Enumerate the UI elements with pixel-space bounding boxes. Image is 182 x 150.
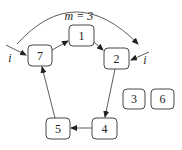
node-3: 3 [123, 89, 145, 109]
node-label: 6 [160, 92, 166, 106]
node-6: 6 [151, 89, 174, 109]
skip-arc-label: m = 3 [65, 9, 94, 23]
node-2: 2 [104, 48, 129, 69]
pointer-label-right: i [143, 53, 146, 67]
node-label: 2 [114, 52, 120, 66]
node-label: 4 [102, 122, 108, 136]
node-label: 3 [131, 92, 137, 106]
cycle-diagram: m = 3 i i 7 1 2 4 5 3 6 [0, 0, 182, 150]
node-5: 5 [46, 118, 70, 139]
edge-2-4 [105, 69, 115, 117]
edge-7-1 [52, 41, 68, 50]
edge-1-2 [94, 42, 103, 50]
node-4: 4 [92, 118, 117, 139]
node-label: 1 [79, 29, 85, 43]
node-label: 5 [55, 122, 61, 136]
node-1: 1 [69, 25, 94, 46]
node-7: 7 [28, 45, 52, 66]
pointer-label-left: i [8, 51, 11, 65]
edge-5-7 [42, 67, 55, 118]
node-label: 7 [37, 49, 43, 63]
